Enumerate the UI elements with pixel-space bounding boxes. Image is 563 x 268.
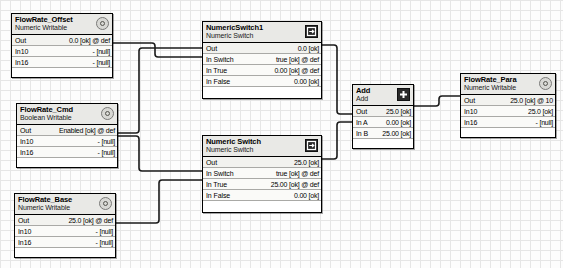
node-flowrate-para[interactable]: FlowRate_Para Numeric Writable Out 25.0 … [460, 73, 556, 138]
wire-base-to-switch2 [115, 180, 202, 223]
slot-row[interactable]: Out Enabled [ok] @ def [17, 125, 117, 136]
slot-value: 25.0 [ok] [386, 107, 411, 116]
node-flowrate-offset[interactable]: FlowRate_Offset Numeric Writable Out 0.0… [11, 13, 113, 78]
slot-value: - [null] [536, 118, 553, 127]
node-subtitle: Numeric Switch [206, 32, 318, 40]
slot-row[interactable]: In False 0.00 [ok] [203, 76, 321, 87]
slot-row[interactable]: In A 0.00 [ok] [353, 117, 413, 128]
wire-sheet-canvas[interactable]: FlowRate_Offset Numeric Writable Out 0.0… [0, 0, 563, 268]
slot-row[interactable]: In Switch true [ok] @ def [203, 54, 321, 65]
add-icon [397, 88, 410, 101]
slot-row[interactable]: In10 25.0 [ok] [461, 106, 555, 117]
node-header: NumericSwitch1 Numeric Switch [203, 22, 321, 43]
node-slot-list: Out 25.0 [ok] In A 0.00 [ok] In B 25.00 … [353, 106, 413, 148]
slot-row[interactable]: Out 0.0 [ok] @ def [12, 35, 112, 46]
slot-value: 0.00 [ok] @ def [274, 66, 319, 75]
switch-icon [305, 25, 318, 38]
node-title: NumericSwitch1 [206, 23, 318, 32]
slot-label: Out [356, 107, 367, 116]
slot-label: Out [206, 44, 217, 53]
slot-value: 0.0 [ok] [298, 44, 319, 53]
slot-label: In B [356, 129, 368, 138]
slot-value: 25.0 [ok] [294, 158, 319, 167]
slot-value: 25.0 [ok] @ def [68, 216, 113, 225]
node-header: FlowRate_Base Numeric Writable [15, 194, 115, 215]
slot-row[interactable]: Out 25.0 [ok] @ 10 [461, 95, 555, 106]
slot-value: - [null] [93, 47, 110, 56]
slot-row[interactable]: In True 0.00 [ok] @ def [203, 65, 321, 76]
node-footer [203, 201, 321, 212]
slot-row[interactable]: Out 25.0 [ok] @ def [15, 215, 115, 226]
numeric-point-icon [96, 17, 109, 30]
slot-value: 0.0 [ok] @ def [69, 36, 110, 45]
slot-label: In False [206, 77, 230, 86]
node-flowrate-cmd[interactable]: FlowRate_Cmd Boolean Writable Out Enable… [16, 103, 118, 168]
node-title: FlowRate_Cmd [20, 105, 114, 114]
wire-offset-to-switch1 [112, 43, 202, 57]
wire-cmd-to-switch1-inswitch [117, 48, 202, 133]
slot-label: Out [18, 216, 29, 225]
slot-row[interactable]: In10 - [null] [15, 226, 115, 237]
node-add[interactable]: Add Add Out 25.0 [ok] In A 0.00 [ok] In … [352, 84, 414, 149]
node-title: FlowRate_Offset [15, 15, 109, 24]
slot-value: true [ok] @ def [276, 169, 319, 178]
slot-value: 25.0 [ok] [528, 107, 553, 116]
slot-label: In10 [18, 227, 31, 236]
slot-label: In True [206, 180, 227, 189]
numeric-point-icon [99, 197, 112, 210]
numeric-point-icon [539, 77, 552, 90]
wire-switch1-to-add-ina [322, 45, 352, 114]
slot-label: In10 [464, 107, 477, 116]
slot-row[interactable]: In16 - [null] [12, 57, 112, 68]
slot-row[interactable]: In10 - [null] [12, 46, 112, 57]
slot-value: 0.00 [ok] [294, 191, 319, 200]
slot-value: 25.00 [ok] @ def [271, 180, 319, 189]
slot-value: - [null] [98, 148, 115, 157]
slot-value: - [null] [96, 227, 113, 236]
node-subtitle: Numeric Writable [18, 204, 112, 212]
slot-row[interactable]: In Switch true [ok] @ def [203, 168, 321, 179]
slot-label: In10 [20, 137, 33, 146]
node-slot-list: Out 0.0 [ok] In Switch true [ok] @ def I… [203, 43, 321, 98]
slot-row[interactable]: In16 - [null] [17, 147, 117, 158]
node-title: FlowRate_Base [18, 195, 112, 204]
node-slot-list: Out 25.0 [ok] In Switch true [ok] @ def … [203, 157, 321, 212]
slot-label: Out [206, 158, 217, 167]
slot-row[interactable]: In True 25.00 [ok] @ def [203, 179, 321, 190]
slot-label: In16 [20, 148, 33, 157]
slot-value: 0.00 [ok] [294, 77, 319, 86]
switch-icon [305, 139, 318, 152]
slot-label: In16 [15, 58, 28, 67]
node-slot-list: Out 25.0 [ok] @ def In10 - [null] In16 -… [15, 215, 115, 257]
node-numeric-switch-1[interactable]: NumericSwitch1 Numeric Switch Out 0.0 [o… [202, 21, 322, 99]
slot-row[interactable]: Out 25.0 [ok] [353, 106, 413, 117]
node-footer [203, 87, 321, 98]
wire-cmd-to-switch2-inswitch [117, 136, 202, 171]
node-header: FlowRate_Offset Numeric Writable [12, 14, 112, 35]
slot-value: true [ok] @ def [276, 55, 319, 64]
node-footer [353, 139, 413, 148]
slot-value: - [null] [93, 58, 110, 67]
slot-row[interactable]: Out 0.0 [ok] [203, 43, 321, 54]
slot-value: Enabled [ok] @ def [59, 126, 115, 135]
slot-row[interactable]: Out 25.0 [ok] [203, 157, 321, 168]
node-flowrate-base[interactable]: FlowRate_Base Numeric Writable Out 25.0 … [14, 193, 116, 258]
node-slot-list: Out Enabled [ok] @ def In10 - [null] In1… [17, 125, 117, 167]
node-subtitle: Numeric Writable [15, 24, 109, 32]
wire-switch2-to-add-inb [322, 122, 352, 159]
slot-value: - [null] [98, 137, 115, 146]
slot-value: 0.00 [ok] [386, 118, 411, 127]
slot-row[interactable]: In16 - [null] [461, 117, 555, 128]
node-title: Numeric Switch [206, 137, 318, 146]
slot-row[interactable]: In16 - [null] [15, 237, 115, 248]
boolean-point-icon [101, 107, 114, 120]
slot-row[interactable]: In10 - [null] [17, 136, 117, 147]
slot-row[interactable]: In False 0.00 [ok] [203, 190, 321, 201]
node-numeric-switch-2[interactable]: Numeric Switch Numeric Switch Out 25.0 [… [202, 135, 322, 213]
slot-value: - [null] [96, 238, 113, 247]
slot-row[interactable]: In B 25.00 [ok] [353, 128, 413, 139]
slot-label: Out [15, 36, 26, 45]
slot-label: Out [464, 96, 475, 105]
slot-label: In A [356, 118, 368, 127]
node-footer [17, 158, 117, 167]
